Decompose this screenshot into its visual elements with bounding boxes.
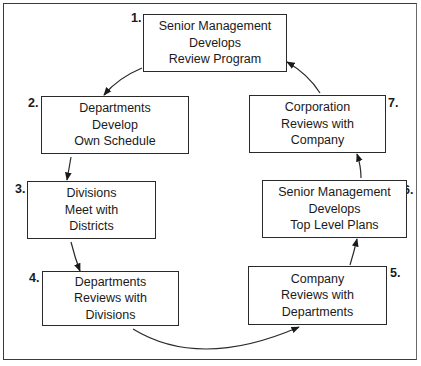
step-box-6: Senior Management Develops Top Level Pla… bbox=[262, 180, 407, 238]
step-5-line-1: Company bbox=[291, 271, 345, 288]
step-box-2: Departments Develop Own Schedule bbox=[41, 96, 189, 154]
step-6-line-3: Top Level Plans bbox=[290, 217, 378, 234]
step-1-line-2: Develops bbox=[189, 35, 241, 52]
step-7-line-2: Reviews with bbox=[281, 116, 354, 133]
step-number-7: 7. bbox=[388, 96, 398, 110]
step-box-7: Corporation Reviews with Company bbox=[249, 95, 386, 153]
step-number-4: 4. bbox=[29, 271, 39, 285]
step-4-line-1: Departments bbox=[75, 274, 147, 291]
step-1-line-3: Review Program bbox=[169, 51, 261, 68]
step-box-5: Company Reviews with Departments bbox=[248, 266, 387, 325]
step-6-line-2: Develops bbox=[308, 201, 360, 218]
step-3-line-2: Meet with bbox=[65, 202, 119, 219]
step-4-line-3: Divisions bbox=[85, 307, 135, 324]
step-1-line-1: Senior Management bbox=[159, 18, 272, 35]
arrow-5-to-6 bbox=[350, 239, 357, 265]
arrow-4-to-5 bbox=[133, 327, 299, 349]
step-box-3: Divisions Meet with Districts bbox=[27, 181, 156, 239]
step-box-1: Senior Management Develops Review Progra… bbox=[143, 14, 287, 72]
arrow-3-to-4 bbox=[71, 242, 80, 271]
step-5-line-3: Departments bbox=[282, 304, 354, 321]
arrow-6-to-7 bbox=[357, 154, 361, 178]
step-3-line-3: Districts bbox=[69, 218, 113, 235]
step-2-line-1: Departments bbox=[79, 100, 151, 117]
arrow-2-to-3 bbox=[67, 157, 71, 180]
step-number-3: 3. bbox=[15, 182, 25, 196]
step-2-line-2: Develop bbox=[92, 117, 138, 134]
step-5-line-2: Reviews with bbox=[281, 287, 354, 304]
step-7-line-1: Corporation bbox=[285, 99, 350, 116]
arrow-1-to-2 bbox=[104, 68, 142, 95]
step-7-line-3: Company bbox=[291, 132, 345, 149]
arrow-7-to-1 bbox=[287, 62, 320, 93]
step-number-2: 2. bbox=[28, 96, 38, 110]
step-number-1: 1. bbox=[131, 11, 141, 25]
step-4-line-2: Reviews with bbox=[74, 290, 147, 307]
step-box-4: Departments Reviews with Divisions bbox=[42, 271, 179, 326]
step-3-line-1: Divisions bbox=[66, 185, 116, 202]
step-2-line-3: Own Schedule bbox=[74, 133, 155, 150]
step-6-line-1: Senior Management bbox=[278, 184, 391, 201]
step-number-5: 5. bbox=[390, 266, 400, 280]
